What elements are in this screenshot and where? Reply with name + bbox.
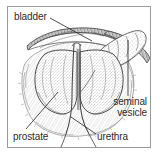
label-prostate: prostate bbox=[13, 132, 48, 143]
label-seminal-vesicle-line2: vesicle bbox=[117, 107, 147, 118]
label-seminal-vesicle: seminalvesicle bbox=[103, 97, 147, 118]
label-bladder: bladder bbox=[14, 12, 47, 23]
label-urethra: urethra bbox=[97, 132, 128, 143]
label-seminal-vesicle-line1: seminal bbox=[113, 96, 147, 107]
figure-container: bladder seminalvesicle prostate urethra bbox=[0, 0, 162, 157]
